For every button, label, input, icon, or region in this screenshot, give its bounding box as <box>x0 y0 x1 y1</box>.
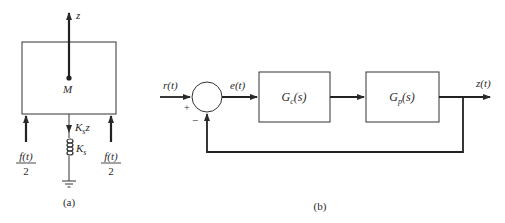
summing-junction <box>192 82 222 112</box>
figure-b: r(t) + − e(t) Gc(s) Gp(s) z(t) (b) <box>160 72 491 213</box>
caption-a: (a) <box>63 196 76 209</box>
caption-b: (b) <box>314 200 327 213</box>
right-force-denominator: 2 <box>108 165 114 177</box>
spring-coil-icon <box>67 139 73 155</box>
mass-center-dot <box>66 75 71 80</box>
plant-label: Gp(s) <box>389 90 414 106</box>
output-label: z(t) <box>475 77 491 90</box>
right-force-numerator: f(t) <box>104 150 118 163</box>
diagram-canvas: z M f(t) 2 f(t) 2 Ksz Ks (a) <box>0 0 505 223</box>
left-force-denominator: 2 <box>23 165 29 177</box>
left-force-numerator: f(t) <box>19 150 33 163</box>
ground-icon <box>62 181 76 187</box>
controller-label: Gc(s) <box>282 90 307 106</box>
plus-sign: + <box>184 102 190 113</box>
spring-force-label: Ksz <box>74 121 90 136</box>
error-label: e(t) <box>230 79 246 92</box>
figure-a: z M f(t) 2 f(t) 2 Ksz Ks (a) <box>16 9 121 209</box>
mass-label: M <box>62 83 73 95</box>
feedback-path <box>207 97 463 152</box>
minus-sign: − <box>192 114 198 126</box>
spring-constant-label: Ks <box>75 142 86 157</box>
input-label: r(t) <box>163 79 178 92</box>
z-label: z <box>75 9 81 21</box>
